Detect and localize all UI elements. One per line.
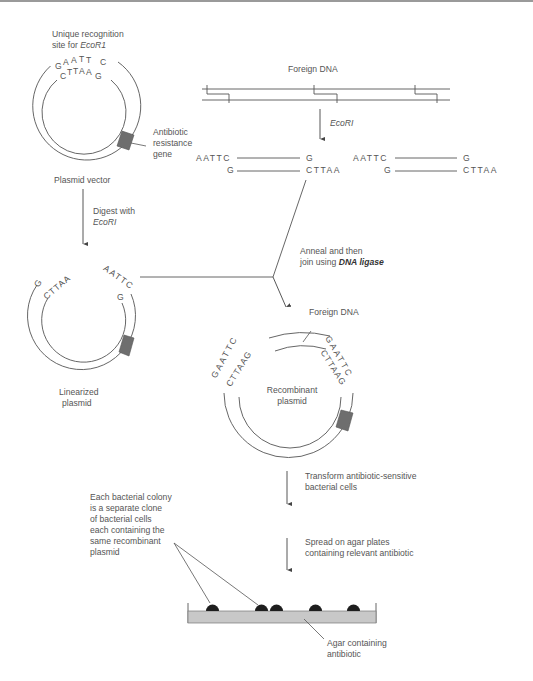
colony-note-line6: plasmid — [90, 547, 120, 558]
ecori-label: EcoRI — [330, 118, 353, 129]
vector-bottom-strand-A1: A — [79, 66, 85, 77]
vector-bottom-strand-A2: A — [86, 67, 92, 78]
recombinant-caption-line2: plasmid — [262, 396, 322, 407]
colony — [270, 605, 283, 612]
dna-ligase-label: DNA ligase — [339, 257, 384, 267]
agar-label-line2: antibiotic — [327, 649, 361, 660]
colony — [347, 605, 360, 612]
spread-label-line2: containing relevant antibiotic — [305, 548, 413, 559]
colony — [309, 605, 322, 612]
anneal-prefix: join using — [300, 257, 339, 267]
enzyme-name: EcoR1 — [80, 40, 106, 50]
vector-bottom-strand-T1: T — [67, 67, 72, 78]
colony-note-line4: each containing the — [90, 525, 165, 536]
colony-note-line5: same recombinant — [90, 536, 161, 547]
anneal-label-line2: join using DNA ligase — [300, 257, 384, 268]
vector-top-strand-T2: T — [86, 55, 91, 66]
vector-top-strand-T1: T — [79, 54, 84, 65]
recombinant-insert-inner — [275, 346, 326, 351]
linearized-right-inner: G — [117, 292, 124, 303]
colony-note-line3: of bacterial cells — [90, 514, 152, 525]
recognition-site-label-line1: Unique recognition — [52, 29, 124, 40]
plasmid-vector-caption: Plasmid vector — [54, 175, 110, 186]
vector-bottom-strand-G: G — [95, 71, 102, 82]
diagram-canvas — [0, 0, 533, 681]
fragment2-top-right: G — [463, 153, 470, 164]
plasmid-inner-strand — [42, 80, 126, 154]
colony-note-line1: Each bacterial colony — [90, 492, 172, 503]
colony — [255, 605, 268, 612]
fragment1-top-left: AATTC — [196, 153, 231, 164]
recognition-prefix: site for — [52, 40, 80, 50]
fragment2-bottom-left: G — [384, 165, 391, 176]
vector-bottom-strand: C — [60, 71, 66, 82]
anneal-arrow — [273, 277, 286, 307]
anneal-label-line1: Anneal and then — [300, 246, 363, 257]
gene-label-line3: gene — [153, 149, 172, 160]
foreign-dna-duplex — [202, 85, 450, 103]
recombinant-insert-label: Foreign DNA — [309, 307, 359, 318]
foreign-dna-label: Foreign DNA — [288, 64, 338, 75]
gene-label-line1: Antibiotic — [153, 127, 188, 138]
agar-layer — [188, 611, 376, 623]
vector-bottom-strand-T2: T — [73, 66, 78, 77]
agar-plate — [188, 603, 376, 623]
spread-label-line1: Spread on agar plates — [305, 537, 390, 548]
transform-label-line1: Transform antibiotic-sensitive — [305, 471, 416, 482]
fragment2-top-left: AATTC — [353, 153, 388, 164]
colony-leaders — [174, 543, 258, 605]
linearized-caption-line1: Linearized — [59, 387, 99, 398]
colony-note-line2: is a separate clone — [90, 503, 162, 514]
vector-top-strand-C: C — [100, 57, 106, 68]
digest-enzyme: EcoRI — [93, 217, 116, 228]
anneal-join-lines — [140, 180, 306, 277]
linearized-caption-line2: plasmid — [62, 398, 92, 409]
vector-top-strand-A2: A — [71, 55, 77, 66]
foreign-fragments — [237, 158, 457, 171]
gene-label-line2: resistance — [153, 138, 192, 149]
recombinant-caption-line1: Recombinant — [262, 385, 322, 396]
fragment1-top-right: G — [306, 153, 313, 164]
linearized-inner-strand — [42, 298, 126, 362]
digest-label-line1: Digest with — [93, 206, 135, 217]
agar-label-line1: Agar containing — [327, 638, 387, 649]
gene-label-leader — [131, 143, 146, 146]
recognition-site-label-line2: site for EcoR1 — [52, 40, 106, 51]
transform-label-line2: bacterial cells — [305, 482, 357, 493]
colony — [206, 605, 219, 612]
fragment2-bottom-right: CTTAA — [463, 165, 498, 176]
fragment1-bottom-right: CTTAA — [306, 165, 341, 176]
fragment1-bottom-left: G — [227, 165, 234, 176]
recombinant-insert-outer — [269, 333, 330, 338]
